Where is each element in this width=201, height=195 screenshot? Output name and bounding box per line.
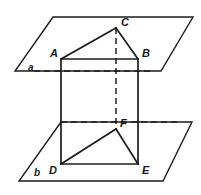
vertex-label-D: D bbox=[49, 164, 57, 176]
edge-D-F bbox=[61, 129, 116, 164]
edge-E-F bbox=[116, 129, 138, 164]
edge-B-C bbox=[116, 28, 138, 59]
geometry-figure: A B C D E F a b bbox=[0, 0, 201, 195]
plane-label-b: b bbox=[34, 167, 40, 178]
geometry-diagram-svg: A B C D E F a b bbox=[0, 0, 201, 195]
vertex-label-A: A bbox=[49, 47, 58, 59]
plane-label-alpha: a bbox=[28, 62, 34, 73]
vertex-label-B: B bbox=[142, 47, 150, 59]
vertex-label-C: C bbox=[121, 16, 130, 28]
plane-b-outline bbox=[19, 122, 192, 181]
vertex-label-E: E bbox=[142, 164, 150, 176]
edge-A-C bbox=[61, 28, 116, 59]
plane-alpha-outline bbox=[15, 17, 193, 71]
vertex-label-F: F bbox=[120, 117, 127, 129]
